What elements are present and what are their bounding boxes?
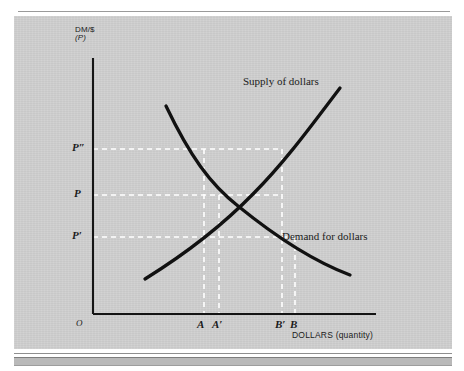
figure-page: DM/$ (P) P″ P P′ O A A′ B′ B Supply of d…	[0, 0, 464, 371]
x-tick-a-prime: A′	[212, 319, 222, 331]
y-axis-unit-label: DM/$ (P)	[75, 26, 95, 43]
supply-curve-label: Supply of dollars	[243, 76, 319, 88]
guide-lines	[93, 149, 295, 314]
x-axis-title: DOLLARS (quantity)	[292, 331, 373, 340]
page-rule-bottom-thick	[14, 357, 452, 366]
x-tick-b-prime: B′	[275, 319, 285, 331]
x-tick-a: A	[197, 319, 204, 331]
supply-curve	[145, 88, 340, 279]
y-axis-unit-symbol: (P)	[75, 34, 95, 42]
demand-curve-label: Demand for dollars	[282, 231, 368, 243]
y-tick-price-high: P″	[72, 142, 85, 154]
page-rule-bottom-thin	[14, 353, 452, 354]
figure-panel: DM/$ (P) P″ P P′ O A A′ B′ B Supply of d…	[14, 16, 452, 349]
x-tick-b: B	[290, 319, 297, 331]
origin-label: O	[76, 319, 83, 328]
supply-demand-plot	[14, 16, 452, 349]
y-tick-price-mid: P	[74, 188, 81, 200]
y-tick-price-low: P′	[72, 230, 82, 242]
page-rule-top	[18, 11, 450, 12]
